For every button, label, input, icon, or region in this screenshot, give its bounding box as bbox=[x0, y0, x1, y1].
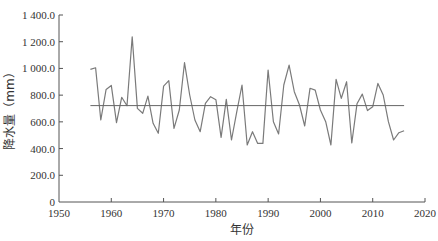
y-tick-label: 400.0 bbox=[30, 143, 55, 155]
y-tick-label: 1 400.0 bbox=[22, 9, 56, 21]
x-axis: 19501960197019801990200020102020 bbox=[48, 198, 437, 219]
y-tick-label: 1 000.0 bbox=[22, 62, 56, 74]
x-tick-label: 1960 bbox=[100, 207, 123, 219]
x-tick-label: 2000 bbox=[309, 207, 332, 219]
y-tick-label: 600.0 bbox=[30, 116, 55, 128]
y-axis: 0200.0400.0600.0800.01 000.01 200.01 400… bbox=[22, 9, 63, 208]
precipitation-line-chart: 0200.0400.0600.0800.01 000.01 200.01 400… bbox=[0, 0, 438, 241]
x-tick-label: 2020 bbox=[414, 207, 437, 219]
annual-precipitation-line bbox=[90, 37, 404, 145]
y-axis-title: 降水量（mm） bbox=[3, 66, 17, 149]
plot-area bbox=[90, 37, 404, 145]
x-tick-label: 1980 bbox=[205, 207, 228, 219]
x-tick-label: 1970 bbox=[153, 207, 176, 219]
y-tick-label: 800.0 bbox=[30, 89, 55, 101]
y-tick-label: 1 200.0 bbox=[22, 36, 56, 48]
x-tick-label: 2010 bbox=[362, 207, 385, 219]
x-axis-title: 年份 bbox=[230, 223, 254, 237]
x-tick-label: 1950 bbox=[48, 207, 71, 219]
y-tick-label: 200.0 bbox=[30, 169, 55, 181]
x-tick-label: 1990 bbox=[257, 207, 280, 219]
